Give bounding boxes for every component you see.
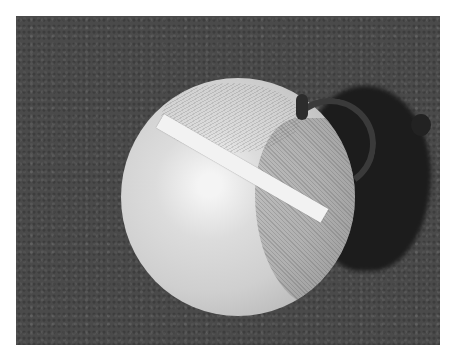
globe-pivot: [296, 94, 308, 120]
photo: [16, 16, 440, 345]
shadow-knob: [411, 114, 431, 136]
